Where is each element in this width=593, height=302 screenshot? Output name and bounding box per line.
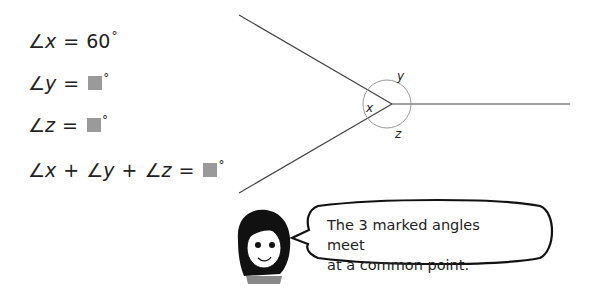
label-z: z [395, 127, 401, 141]
girl-avatar-icon [238, 210, 290, 284]
label-y: y [397, 69, 404, 83]
label-x: x [366, 101, 373, 115]
speech-bubble-text: The 3 marked angles meet at a common poi… [327, 215, 507, 275]
